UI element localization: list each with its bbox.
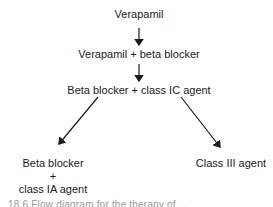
- node-beta-blocker-class-ic: Beta blocker + class IC agent: [60, 84, 218, 97]
- node-line: Beta blocker: [8, 157, 98, 170]
- node-class-iii-agent: Class III agent: [190, 157, 272, 170]
- node-beta-blocker-class-ia: Beta blocker + class IA agent: [8, 157, 98, 196]
- node-verapamil-beta-blocker: Verapamil + beta blocker: [70, 48, 208, 61]
- arrow-ic-to-iii: [181, 97, 220, 147]
- figure-caption: 18.6 Flow diagram for the therapy of ...: [8, 199, 188, 207]
- node-verapamil: Verapamil: [100, 8, 178, 21]
- node-line: class IA agent: [8, 183, 98, 196]
- arrow-ic-to-ia: [59, 97, 98, 144]
- node-line: +: [8, 170, 98, 183]
